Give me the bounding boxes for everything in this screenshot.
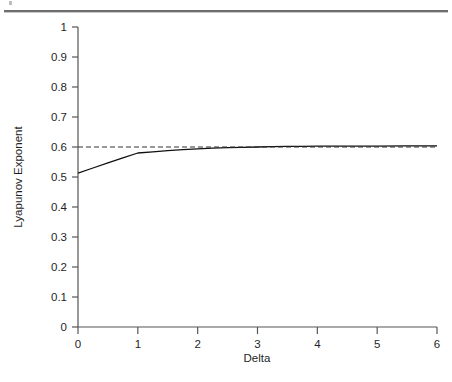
chart-axes	[78, 27, 437, 327]
x-tick-label: 6	[434, 338, 440, 350]
y-tick-label: 0.7	[51, 111, 67, 123]
x-tick-label: 1	[135, 338, 141, 350]
scan-artifact-speck	[9, 1, 12, 5]
y-tick-label: 0.9	[51, 51, 67, 63]
y-tick-label: 0.4	[51, 201, 68, 213]
y-axis-ticks: 00.10.20.30.40.50.60.70.80.91	[51, 21, 78, 333]
x-axis-title: Delta	[244, 352, 271, 364]
y-tick-label: 0.8	[51, 81, 67, 93]
x-tick-label: 5	[374, 338, 380, 350]
x-tick-label: 0	[75, 338, 81, 350]
x-tick-label: 4	[314, 338, 321, 350]
chart-series-line-0	[78, 146, 437, 173]
page-canvas: 00.10.20.30.40.50.60.70.80.91 0123456 De…	[0, 0, 452, 382]
y-tick-label: 0.2	[51, 261, 67, 273]
x-tick-label: 3	[254, 338, 260, 350]
y-tick-label: 0.6	[51, 141, 67, 153]
y-tick-label: 0.1	[51, 291, 67, 303]
x-axis-ticks: 0123456	[75, 327, 440, 350]
chart-figure: 00.10.20.30.40.50.60.70.80.91 0123456 De…	[0, 12, 452, 382]
y-tick-label: 0	[61, 321, 67, 333]
chart-series-layer	[78, 146, 437, 173]
x-tick-label: 2	[194, 338, 200, 350]
y-axis-title: Lyapunov Exponent	[12, 126, 24, 228]
lyapunov-exponent-line-chart: 00.10.20.30.40.50.60.70.80.91 0123456 De…	[0, 12, 452, 382]
y-tick-label: 0.5	[51, 171, 67, 183]
y-tick-label: 1	[61, 21, 67, 33]
y-tick-label: 0.3	[51, 231, 67, 243]
